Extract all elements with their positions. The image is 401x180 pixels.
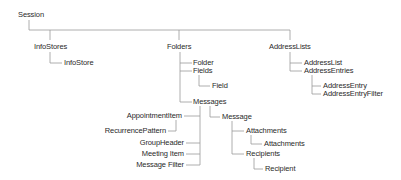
object-model-diagram: Session InfoStores InfoStore Folders Fol…: [0, 0, 401, 180]
node-addresslists: AddressLists: [269, 43, 311, 51]
node-folders: Folders: [167, 43, 191, 51]
node-attachments-child: Attachments: [264, 140, 305, 148]
node-messages: Messages: [193, 98, 226, 106]
node-session: Session: [18, 11, 44, 19]
node-addressentryfilter: AddressEntryFilter: [323, 90, 383, 98]
node-recipients: Recipients: [246, 150, 280, 158]
node-field: Field: [212, 82, 228, 90]
node-recipient: Recipient: [265, 165, 295, 173]
node-recurrencepattern: RecurrencePattern: [105, 127, 166, 135]
node-message: Message: [222, 113, 252, 121]
node-messagefilter: Message Filter: [136, 161, 184, 169]
node-meetingitem: Meeting Item: [142, 150, 184, 158]
node-appointmentitem: AppointmentItem: [127, 112, 182, 120]
node-infostores: InfoStores: [34, 43, 67, 51]
node-groupheader: GroupHeader: [140, 139, 184, 147]
node-attachments: Attachments: [246, 127, 287, 135]
node-fields: Fields: [193, 67, 212, 75]
node-addressentries: AddressEntries: [304, 67, 353, 75]
node-infostore: InfoStore: [64, 59, 94, 67]
